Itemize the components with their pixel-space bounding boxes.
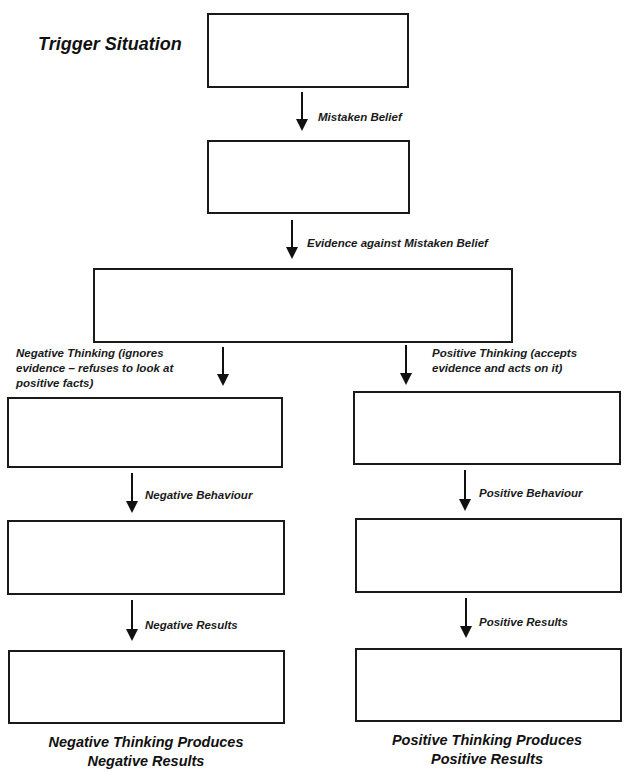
positive-behaviour-label: Positive Behaviour	[479, 486, 583, 501]
arrow-down-icon	[286, 220, 298, 259]
negative-caption-line1: Negative Thinking Produces	[6, 733, 286, 752]
positive-results-box[interactable]	[355, 648, 622, 722]
positive-conclusion-caption: Positive Thinking Produces Positive Resu…	[352, 731, 622, 769]
negative-behaviour-label: Negative Behaviour	[145, 488, 252, 503]
negative-thinking-line3: positive facts)	[16, 376, 173, 391]
negative-caption-line2: Negative Results	[6, 752, 286, 771]
evidence-box[interactable]	[93, 268, 513, 343]
negative-thinking-line1: Negative Thinking (ignores	[16, 346, 173, 361]
trigger-situation-title: Trigger Situation	[38, 34, 182, 55]
positive-thinking-line1: Positive Thinking (accepts	[432, 346, 577, 361]
arrow-down-icon	[126, 600, 138, 641]
positive-results-label: Positive Results	[479, 615, 568, 630]
negative-thinking-line2: evidence – refuses to look at	[16, 361, 173, 376]
positive-thinking-line2: evidence and acts on it)	[432, 361, 577, 376]
positive-caption-line2: Positive Results	[352, 750, 622, 769]
negative-results-label: Negative Results	[145, 618, 238, 633]
negative-conclusion-caption: Negative Thinking Produces Negative Resu…	[6, 733, 286, 771]
positive-thinking-box[interactable]	[353, 391, 621, 465]
arrow-down-icon	[459, 470, 471, 511]
negative-behaviour-box[interactable]	[7, 520, 285, 595]
mistaken-belief-box[interactable]	[207, 140, 410, 214]
positive-behaviour-box[interactable]	[355, 518, 622, 593]
arrow-down-icon	[126, 473, 138, 513]
arrow-down-icon	[460, 598, 472, 638]
arrow-down-icon	[217, 347, 229, 386]
positive-caption-line1: Positive Thinking Produces	[352, 731, 622, 750]
evidence-against-mistaken-belief-label: Evidence against Mistaken Belief	[307, 236, 488, 251]
trigger-situation-box[interactable]	[207, 13, 409, 88]
positive-thinking-label: Positive Thinking (accepts evidence and …	[432, 346, 577, 376]
negative-thinking-box[interactable]	[7, 397, 283, 468]
negative-results-box[interactable]	[8, 650, 285, 724]
arrow-down-icon	[400, 345, 412, 385]
arrow-down-icon	[296, 92, 308, 131]
negative-thinking-label: Negative Thinking (ignores evidence – re…	[16, 346, 173, 391]
mistaken-belief-label: Mistaken Belief	[318, 110, 402, 125]
